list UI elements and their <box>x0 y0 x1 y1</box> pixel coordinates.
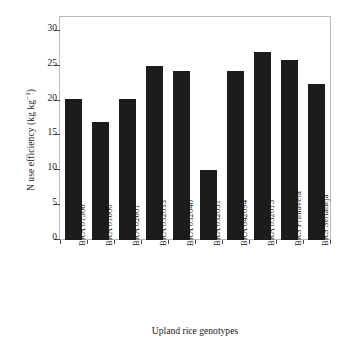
x-tick-mark <box>87 240 88 244</box>
x-tick-mark <box>249 240 250 244</box>
x-category-label: BRA 02601 <box>131 204 141 246</box>
x-axis-title: Upland rice genotypes <box>59 325 331 336</box>
x-tick-mark <box>276 240 277 244</box>
plot-area: 051015202530 <box>60 17 330 240</box>
y-tick-label: 5 <box>37 197 57 207</box>
x-tick-mark <box>222 240 223 244</box>
y-tick-label: 25 <box>37 58 57 68</box>
x-category-label: BRA 032051 <box>212 200 222 246</box>
x-category-label: BRA 032033 <box>158 200 168 246</box>
y-tick-label: 10 <box>37 162 57 172</box>
x-tick-mark <box>330 240 331 244</box>
x-tick-mark <box>114 240 115 244</box>
y-tick-label: 15 <box>37 127 57 137</box>
y-axis-title-tail: ) <box>26 89 36 92</box>
x-category-label: BRA 01600 <box>104 204 114 246</box>
y-tick-label: 20 <box>37 93 57 103</box>
x-tick-mark <box>195 240 196 244</box>
x-category-label: BRS Sertaneja <box>320 194 330 246</box>
x-category-label: BRS Primavera <box>293 191 303 246</box>
y-tick-20: 20 <box>60 100 61 101</box>
y-axis-title-exponent: −1 <box>24 92 32 100</box>
y-tick-25: 25 <box>60 65 61 66</box>
y-tick-10: 10 <box>60 169 61 170</box>
x-tick-mark <box>141 240 142 244</box>
chart-figure: N use efficiency (kg kg−1) 051015202530 … <box>0 0 344 347</box>
y-axis-title-text: N use efficiency (kg kg <box>26 100 36 191</box>
x-category-label: BRA 032048 <box>185 200 195 246</box>
x-category-label: BRA 052015 <box>266 200 276 246</box>
y-tick-label: 0 <box>37 232 57 242</box>
y-tick-label: 30 <box>37 23 57 33</box>
x-tick-mark <box>168 240 169 244</box>
x-tick-mark <box>303 240 304 244</box>
y-tick-30: 30 <box>60 30 61 31</box>
y-tick-5: 5 <box>60 204 61 205</box>
y-tick-15: 15 <box>60 134 61 135</box>
x-category-label: BRA 042094 <box>239 200 249 246</box>
x-category-label: BRA 01506 <box>77 204 87 246</box>
x-tick-mark <box>60 240 61 244</box>
